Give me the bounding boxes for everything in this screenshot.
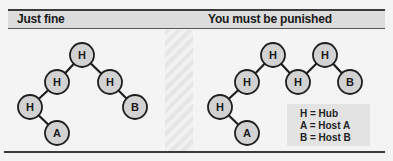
- hub-node: H: [286, 70, 310, 94]
- svg-text:B: B: [131, 101, 139, 113]
- hub-node: H: [98, 70, 122, 94]
- svg-text:H: H: [78, 49, 86, 61]
- hub-node: H: [235, 70, 259, 94]
- legend: H = Hub A = Host A B = Host B: [287, 104, 370, 146]
- host-a-node: A: [235, 121, 259, 145]
- host-b-node: B: [123, 95, 147, 119]
- svg-text:H: H: [216, 101, 224, 113]
- bottom-rule: [4, 151, 385, 153]
- svg-text:H: H: [294, 76, 302, 88]
- hub-node: H: [313, 43, 337, 67]
- hub-node: H: [261, 43, 285, 67]
- svg-text:H: H: [26, 101, 34, 113]
- hub-node: H: [45, 70, 69, 94]
- svg-text:H: H: [243, 76, 251, 88]
- svg-text:B: B: [346, 76, 354, 88]
- hub-node: H: [208, 95, 232, 119]
- svg-text:H: H: [53, 76, 61, 88]
- svg-text:H: H: [106, 76, 114, 88]
- svg-text:H: H: [269, 49, 277, 61]
- svg-text:A: A: [243, 127, 251, 139]
- panel-0-graph: HHHHAB: [18, 43, 147, 145]
- svg-text:H: H: [321, 49, 329, 61]
- host-a-node: A: [45, 121, 69, 145]
- legend-item-host-b: B = Host B: [300, 132, 351, 143]
- hub-node: H: [18, 95, 42, 119]
- host-b-node: B: [338, 70, 362, 94]
- hub-node: H: [70, 43, 94, 67]
- svg-text:A: A: [53, 127, 61, 139]
- legend-item-hub: H = Hub: [300, 108, 338, 119]
- legend-item-host-a: A = Host A: [300, 120, 350, 131]
